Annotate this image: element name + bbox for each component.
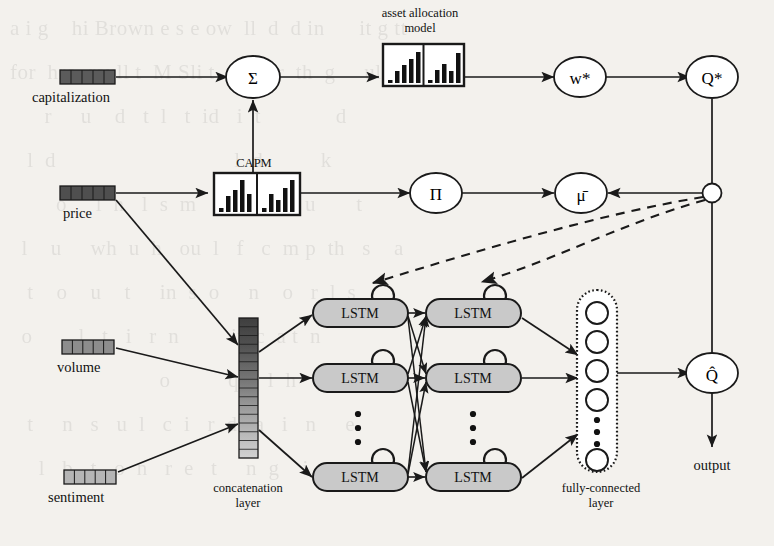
node-sum-label: Σ — [248, 69, 258, 88]
lstm-label: LSTM — [341, 470, 379, 485]
input-sentiment[interactable]: sentiment — [48, 470, 116, 505]
node-sum[interactable]: Σ — [226, 56, 280, 98]
lstm-vertical-dots-col2 — [470, 411, 476, 445]
lstm-label: LSTM — [341, 371, 379, 386]
input-label-volume: volume — [57, 359, 101, 375]
input-volume[interactable]: volume — [57, 340, 114, 375]
fc-dot — [594, 417, 600, 423]
asset-allocation-caption-line2: model — [404, 21, 436, 35]
capm-caption: CAPM — [236, 156, 271, 170]
lstm-label: LSTM — [454, 306, 492, 321]
node-q-hat-label: Q̂ — [706, 366, 718, 385]
input-capitalization[interactable]: capitalization — [32, 70, 115, 105]
concatenation-layer[interactable]: concatenation layer — [213, 318, 283, 510]
vector-bar-icon — [60, 70, 115, 84]
input-label-capitalization: capitalization — [32, 89, 111, 105]
node-w-star[interactable]: w* — [554, 57, 606, 97]
fc-dot — [594, 441, 600, 447]
vector-bar-icon — [64, 470, 116, 484]
lstm-vertical-dots-col1 — [355, 411, 361, 445]
edge-volume-to-concatenation — [116, 348, 238, 377]
input-label-sentiment: sentiment — [48, 489, 104, 505]
edge-lstm-r1c2-to-fc — [522, 318, 578, 355]
lstm-block-r1c2[interactable]: LSTM — [426, 285, 521, 327]
box-asset-allocation-model[interactable]: asset allocation model — [382, 6, 464, 86]
node-mu-bar[interactable]: μ̄ — [555, 173, 607, 213]
concatenation-caption-line1: concatenation — [213, 481, 283, 495]
lstm-block-r3c1[interactable]: LSTM — [313, 449, 408, 491]
fc-caption-line1: fully-connected — [562, 481, 641, 495]
edge-concat-to-lstm-r3c1 — [259, 430, 312, 477]
node-w-star-label: w* — [570, 69, 591, 88]
node-pi-label: Π — [430, 185, 442, 204]
edge-sentiment-to-concatenation — [118, 424, 238, 472]
architecture-diagram: capitalization price volume — [0, 0, 774, 546]
fully-connected-layer[interactable]: fully-connected layer — [562, 290, 641, 510]
lstm-label: LSTM — [454, 371, 492, 386]
vector-bar-icon — [60, 186, 115, 200]
input-label-price: price — [63, 205, 92, 221]
figure-canvas: a i g hi Brown e s e ow ll d d in it g t… — [0, 0, 774, 546]
edge-lstm-r3c2-to-fc — [522, 434, 578, 478]
lstm-label: LSTM — [341, 306, 379, 321]
node-junction[interactable] — [703, 184, 722, 203]
lstm-block-r3c2[interactable]: LSTM — [426, 449, 521, 491]
fc-caption-line2: layer — [589, 496, 615, 510]
node-q-star-label: Q* — [702, 69, 723, 88]
asset-allocation-caption-line1: asset allocation — [382, 6, 459, 20]
lstm-label: LSTM — [454, 470, 492, 485]
box-capm[interactable]: CAPM — [214, 156, 300, 215]
lstm-block-r2c1[interactable]: LSTM — [313, 350, 408, 392]
output-label: output — [693, 457, 730, 473]
node-q-star[interactable]: Q* — [686, 56, 738, 98]
node-q-hat[interactable]: Q̂ — [686, 353, 738, 393]
input-price[interactable]: price — [60, 186, 115, 221]
bar-chart-icon — [214, 173, 300, 215]
lstm-cross-connections — [407, 313, 426, 477]
edge-price-to-concatenation — [116, 200, 238, 345]
vector-bar-icon — [62, 340, 114, 354]
fc-dot — [594, 429, 600, 435]
edge-concat-to-lstm-r1c1 — [259, 315, 312, 352]
bar-chart-icon — [383, 44, 464, 86]
concatenation-caption-line2: layer — [236, 496, 262, 510]
node-pi[interactable]: Π — [410, 173, 462, 213]
lstm-block-r2c2[interactable]: LSTM — [426, 350, 521, 392]
lstm-block-r1c1[interactable]: LSTM — [313, 285, 408, 327]
